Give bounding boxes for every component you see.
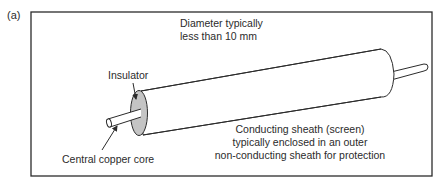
insulator-label: Insulator [108, 69, 149, 81]
sheath-label-line3: non-conducting sheath for protection [215, 149, 386, 161]
sheath-label-line2: typically enclosed in an outer [233, 136, 368, 148]
coaxial-cable-figure: (a) Diameter typically less than 10 mm I… [0, 0, 445, 188]
panel-label: (a) [7, 9, 20, 21]
core-arrow [102, 126, 117, 150]
sheath-label-line1: Conducting sheath (screen) [236, 123, 365, 135]
diameter-label-line2: less than 10 mm [180, 30, 257, 42]
core-label: Central copper core [62, 153, 154, 165]
core-rod-right [391, 64, 428, 80]
diameter-label-line1: Diameter typically [180, 17, 264, 29]
